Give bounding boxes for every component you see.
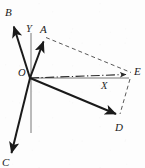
vector-diagram-figure: B Y A O X E D C xyxy=(0,0,145,168)
vector-e-line xyxy=(30,75,126,79)
label-x-axis: X xyxy=(101,81,107,92)
vector-c-line xyxy=(12,78,31,153)
label-a: A xyxy=(40,24,47,35)
dashed-construction-e-to-d xyxy=(120,79,130,114)
label-d: D xyxy=(115,122,123,133)
label-e: E xyxy=(134,66,141,77)
label-o-origin: O xyxy=(18,68,26,79)
dashed-construction-a-to-e xyxy=(46,38,131,73)
label-c: C xyxy=(2,157,9,168)
vector-diagram-canvas xyxy=(0,0,145,168)
label-b: B xyxy=(5,7,12,18)
vector-a-line xyxy=(30,42,44,79)
label-y-axis: Y xyxy=(26,24,32,35)
